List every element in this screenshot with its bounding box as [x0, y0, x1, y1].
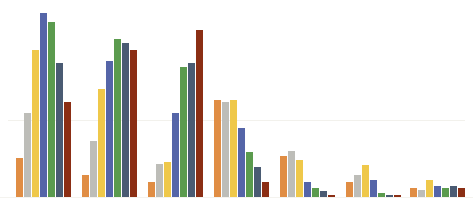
bar[interactable]: [418, 190, 425, 197]
bar[interactable]: [230, 100, 237, 197]
bar[interactable]: [378, 193, 385, 197]
bar[interactable]: [262, 182, 269, 197]
bar[interactable]: [254, 167, 261, 197]
bar[interactable]: [130, 50, 137, 197]
bar[interactable]: [32, 50, 39, 197]
bar[interactable]: [82, 175, 89, 197]
bar-group: [280, 11, 335, 197]
bar[interactable]: [370, 180, 377, 197]
bar[interactable]: [48, 22, 55, 197]
bar[interactable]: [90, 141, 97, 197]
bar[interactable]: [362, 165, 369, 197]
plot-area: [0, 0, 473, 208]
bar[interactable]: [386, 195, 393, 197]
bar[interactable]: [346, 182, 353, 197]
bar[interactable]: [156, 164, 163, 197]
bar-group: [16, 11, 71, 197]
bar[interactable]: [114, 39, 121, 197]
bar[interactable]: [106, 61, 113, 197]
baseline: [0, 197, 473, 198]
bar[interactable]: [164, 162, 171, 197]
bar[interactable]: [450, 186, 457, 197]
bar[interactable]: [394, 195, 401, 197]
bar[interactable]: [426, 180, 433, 197]
bar-chart: [0, 0, 473, 208]
bar[interactable]: [280, 156, 287, 197]
bar[interactable]: [410, 188, 417, 197]
bar[interactable]: [354, 175, 361, 197]
bar[interactable]: [122, 43, 129, 197]
bar[interactable]: [40, 13, 47, 197]
bar[interactable]: [98, 89, 105, 197]
bar[interactable]: [56, 63, 63, 197]
bar[interactable]: [246, 152, 253, 197]
bar[interactable]: [172, 113, 179, 197]
bar[interactable]: [312, 188, 319, 197]
bar[interactable]: [188, 63, 195, 197]
bar-group: [82, 11, 137, 197]
bar[interactable]: [238, 128, 245, 197]
bar[interactable]: [180, 67, 187, 197]
bar[interactable]: [288, 151, 295, 198]
bar[interactable]: [214, 100, 221, 197]
bar[interactable]: [24, 113, 31, 197]
bar-group: [346, 11, 401, 197]
bar[interactable]: [64, 102, 71, 197]
bar[interactable]: [196, 30, 203, 197]
bar-group: [214, 11, 269, 197]
bar[interactable]: [296, 160, 303, 197]
bar[interactable]: [320, 191, 327, 197]
bar[interactable]: [304, 182, 311, 197]
bar[interactable]: [222, 102, 229, 197]
bar[interactable]: [434, 186, 441, 197]
bar-group: [410, 11, 465, 197]
bar-group: [148, 11, 203, 197]
bar[interactable]: [328, 195, 335, 197]
bar[interactable]: [442, 188, 449, 197]
bar[interactable]: [16, 158, 23, 197]
bar[interactable]: [148, 182, 155, 197]
bar[interactable]: [458, 188, 465, 197]
